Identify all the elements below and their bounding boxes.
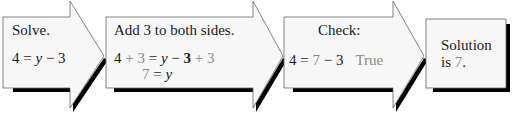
eq-part: 4 = [289, 52, 312, 68]
eq-part: is [441, 54, 455, 70]
solution-title: Solution [441, 37, 492, 54]
added-term: + 3 [122, 50, 145, 66]
eq-part: − 3 [42, 50, 65, 66]
eq-part: 4 [114, 50, 122, 66]
eq-part: . [462, 54, 466, 70]
var-y: y [161, 50, 168, 66]
eq-part: 3 [184, 50, 192, 66]
step-2-title: Add 3 to both sides. [114, 22, 234, 39]
step-1-title: Solve. [12, 22, 50, 39]
flow-shapes [0, 0, 512, 114]
check-result: True [355, 52, 383, 68]
eq-part: 4 = [12, 50, 35, 66]
solution-line: is 7. [441, 54, 466, 71]
result-value: 7 [142, 66, 150, 82]
step-2-equation-2: 7 = y [142, 66, 172, 83]
substituted-value: 7 [312, 52, 320, 68]
step-3-title: Check: [318, 22, 361, 39]
eq-part: = [145, 50, 161, 66]
step-2-equation-1: 4 + 3 = y − 3 + 3 [114, 50, 215, 67]
eq-part: = [150, 66, 166, 82]
var-y: y [165, 66, 172, 82]
step-1-equation: 4 = y − 3 [12, 50, 66, 67]
step-3-equation: 4 = 7 − 3True [289, 52, 383, 69]
eq-part: − 3 [320, 52, 343, 68]
eq-part: − [168, 50, 184, 66]
added-term: + 3 [191, 50, 214, 66]
